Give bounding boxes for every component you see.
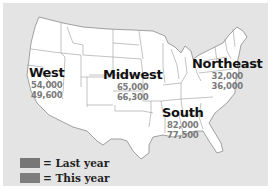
region-west: West 54,000 49,600: [29, 66, 64, 99]
region-midwest: Midwest 65,000 66,300: [103, 68, 162, 101]
region-name: South: [162, 106, 204, 119]
legend-item-last-year: = Last year: [20, 155, 110, 170]
last-year-value: 82,000: [162, 121, 204, 130]
legend: = Last year = This year: [20, 155, 110, 185]
last-year-value: 32,000: [192, 72, 263, 81]
region-south: South 82,000 77,500: [162, 106, 204, 139]
region-name: Midwest: [103, 68, 162, 81]
region-northeast: Northeast 32,000 36,000: [192, 57, 263, 90]
this-year-swatch: [20, 173, 40, 183]
this-year-value: 77,500: [162, 131, 204, 140]
region-name: West: [29, 66, 64, 79]
this-year-value: 66,300: [103, 93, 162, 102]
legend-item-this-year: = This year: [20, 170, 110, 185]
last-year-value: 54,000: [29, 81, 64, 90]
legend-label: = Last year: [43, 157, 109, 169]
this-year-value: 36,000: [192, 82, 263, 91]
this-year-value: 49,600: [29, 91, 64, 100]
last-year-swatch: [20, 158, 40, 168]
region-name: Northeast: [192, 57, 263, 70]
last-year-value: 65,000: [103, 83, 162, 92]
legend-label: = This year: [43, 172, 110, 184]
map-frame: West 54,000 49,600 Midwest 65,000 66,300…: [3, 3, 268, 186]
